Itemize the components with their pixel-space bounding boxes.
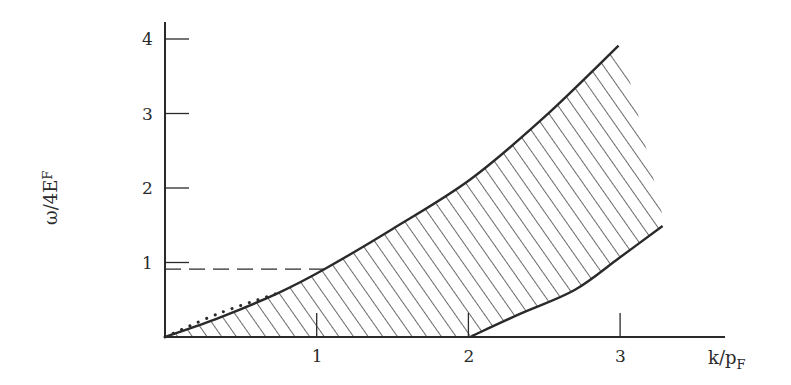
x-tick-label: 2 xyxy=(463,346,474,366)
y-tick-label: 1 xyxy=(142,253,153,273)
x-tick-label: 3 xyxy=(615,346,626,366)
y-axis-title: ω/4EF xyxy=(40,171,61,225)
y-tick-label: 3 xyxy=(142,104,153,124)
hatched-region xyxy=(150,20,690,350)
chart: 1234 123 k/pF ω/4EF xyxy=(0,0,791,385)
y-tick-label: 4 xyxy=(142,29,153,49)
x-axis-title: k/pF xyxy=(708,347,746,372)
x-tick-label: 1 xyxy=(312,346,323,366)
y-tick-label: 2 xyxy=(142,178,153,198)
